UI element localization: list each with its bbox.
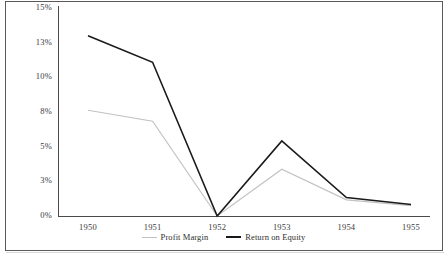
- chart-figure: 15%13%10%8%5%3%0% 1950195119521953195419…: [0, 0, 447, 258]
- x-axis-tick-label: 1950: [58, 223, 118, 232]
- y-axis-tick-label: 5%: [40, 142, 52, 151]
- series-line-profit-margin: [88, 110, 411, 216]
- series-line-return-on-equity: [88, 36, 411, 216]
- plot-area: 15%13%10%8%5%3%0% 1950195119521953195419…: [0, 0, 447, 258]
- y-axis-tick-label: 3%: [40, 176, 52, 185]
- x-axis-tick-label: 1951: [123, 223, 183, 232]
- x-axis-tick-label: 1954: [316, 223, 376, 232]
- y-axis-tick-label: 0%: [40, 211, 52, 220]
- y-axis-tick-label: 13%: [36, 38, 52, 47]
- y-axis-tick-label: 8%: [40, 107, 52, 116]
- line-chart-svg: [0, 0, 447, 258]
- series-lines: [88, 36, 411, 216]
- x-axis-tick-label: 1955: [381, 223, 441, 232]
- x-axis-tick-label: 1953: [252, 223, 312, 232]
- y-axis-tick-label: 15%: [36, 3, 52, 12]
- y-axis-tick-label: 10%: [36, 72, 52, 81]
- x-axis-tick-label: 1952: [187, 223, 247, 232]
